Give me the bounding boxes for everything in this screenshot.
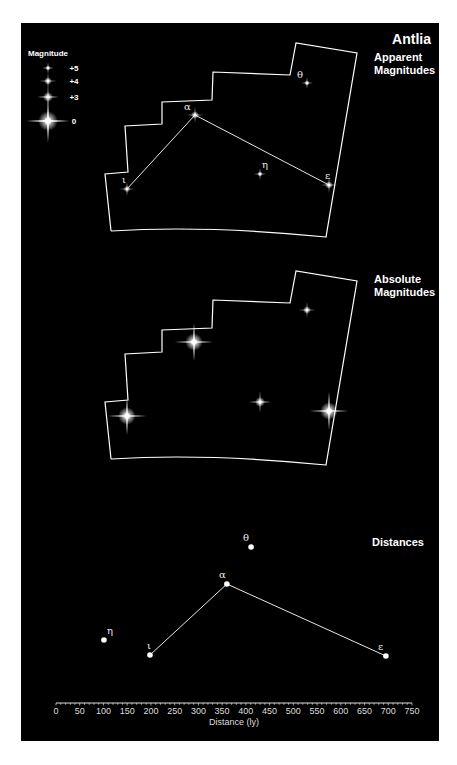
- star-epsilon-dot: [383, 653, 389, 659]
- star-alpha-dot: [224, 581, 230, 587]
- asterism-line: [127, 115, 195, 189]
- star-eta-dot: [101, 637, 107, 643]
- tick-label: 750: [404, 706, 419, 716]
- distances-label: Distances: [372, 536, 424, 548]
- legend-title: Magnitude: [28, 49, 69, 58]
- star-label: η: [262, 159, 268, 170]
- star-theta-icon: [299, 302, 316, 319]
- star-label: θ: [297, 69, 303, 80]
- axis-title: Distance (ly): [209, 717, 259, 727]
- tick-label: 450: [262, 706, 277, 716]
- tick-label: 600: [333, 706, 348, 716]
- legend-star-icon: [42, 62, 54, 74]
- tick-label: 400: [238, 706, 253, 716]
- legend-label: 0: [72, 117, 77, 126]
- tick-label: 550: [310, 706, 325, 716]
- tick-label: 300: [191, 706, 206, 716]
- apparent-label-1: Apparent: [374, 51, 423, 63]
- legend-label: +5: [69, 64, 79, 73]
- tick-label: 200: [143, 706, 158, 716]
- absolute-label-2: Magnitudes: [374, 286, 435, 298]
- star-label: ι: [147, 640, 151, 651]
- tick-label: 0: [53, 706, 58, 716]
- tick-label: 700: [381, 706, 396, 716]
- star-label: ε: [325, 170, 330, 181]
- star-theta-dot: [248, 544, 254, 550]
- asterism-line: [150, 584, 227, 655]
- tick-label: 50: [75, 706, 85, 716]
- magnitude-legend: +5+4+30: [26, 62, 79, 143]
- tick-label: 150: [120, 706, 135, 716]
- tick-label: 250: [167, 706, 182, 716]
- star-label: η: [107, 625, 113, 636]
- constellation-boundary: [105, 43, 357, 237]
- star-iota-dot: [147, 652, 153, 658]
- star-label: θ: [243, 532, 249, 543]
- constellation-title: Antlia: [392, 31, 431, 47]
- absolute-magnitudes-chart: [105, 271, 357, 465]
- legend-label: +3: [69, 93, 79, 102]
- absolute-label-1: Absolute: [374, 273, 421, 285]
- tick-label: 350: [215, 706, 230, 716]
- legend-label: +4: [69, 77, 79, 86]
- distance-chart: αεηθι: [101, 532, 389, 659]
- constellation-diagram: Antlia Apparent Magnitudes Absolute Magn…: [0, 0, 457, 765]
- legend-star-icon: [26, 99, 69, 142]
- star-label: ι: [122, 174, 126, 185]
- apparent-magnitudes-chart: αεηθι: [105, 43, 357, 237]
- asterism-line: [227, 584, 386, 656]
- tick-label: 500: [286, 706, 301, 716]
- star-iota-icon: [108, 397, 146, 435]
- distance-axis: 0501001502002503003504004505005506006507…: [53, 703, 419, 716]
- star-label: ε: [378, 641, 383, 652]
- star-label: α: [219, 569, 226, 580]
- apparent-label-2: Magnitudes: [374, 64, 435, 76]
- star-label: α: [184, 101, 191, 112]
- star-epsilon-icon: [310, 392, 348, 430]
- star-eta-icon: [249, 391, 271, 413]
- tick-label: 100: [96, 706, 111, 716]
- tick-label: 650: [357, 706, 372, 716]
- constellation-boundary: [105, 271, 357, 465]
